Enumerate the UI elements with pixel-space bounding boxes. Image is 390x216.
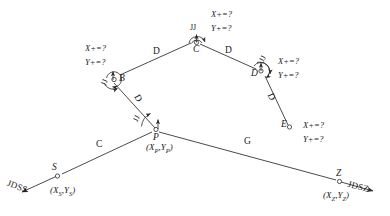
edge-label-B-C: D xyxy=(153,47,160,57)
station-marker-Z xyxy=(337,179,341,183)
unknown-x-label-C: X+=? xyxy=(211,10,232,19)
coordinate-label-S: (XS,YS) xyxy=(50,186,75,198)
coordinate-label-P: (XP,YP) xyxy=(146,143,173,155)
traverse-diagram-svg xyxy=(0,0,390,216)
diagram-canvas: S P B C D E Z (XS,YS) (XP,YP) (XZ,YZ) C … xyxy=(0,0,390,216)
unknown-y-label-D: Y+=? xyxy=(278,71,298,80)
coord-S-mid: ,Y xyxy=(62,185,69,195)
edge-label-C-D: D xyxy=(225,46,232,56)
edge-label-S-P: C xyxy=(96,140,102,150)
angle-label-C: JJ xyxy=(190,24,196,32)
station-label-E: E xyxy=(281,120,287,130)
angle-arcs xyxy=(105,35,271,130)
angle-arc-P xyxy=(142,114,151,127)
coord-Z-close: ) xyxy=(346,190,349,200)
unknown-x-label-D: X+=? xyxy=(278,57,299,66)
station-label-C: C xyxy=(193,45,199,55)
coord-S-open: (X xyxy=(50,185,59,195)
coord-P-open: (X xyxy=(146,142,155,152)
coord-Z-open: (X xyxy=(323,190,332,200)
station-label-Z: Z xyxy=(336,169,341,179)
edge-line-S-P xyxy=(62,132,152,174)
station-marker-B xyxy=(112,77,116,81)
coord-P-mid: ,Y xyxy=(158,142,165,152)
unknown-y-label-E: Y+=? xyxy=(303,135,323,144)
station-marker-S xyxy=(55,174,59,178)
station-label-S: S xyxy=(52,163,57,173)
coordinate-label-Z: (XZ,YZ) xyxy=(323,191,349,203)
unknown-x-label-E: X+=? xyxy=(303,121,324,130)
station-label-B: B xyxy=(119,74,125,84)
station-marker-P xyxy=(154,127,158,131)
edge-label-P-Z: G xyxy=(244,137,251,147)
station-marker-E xyxy=(287,125,291,129)
coord-P-close: ) xyxy=(170,142,173,152)
station-label-D: D xyxy=(251,69,258,79)
unknown-x-label-B: X+=? xyxy=(85,44,106,53)
coord-S-close: ) xyxy=(72,185,75,195)
unknown-y-label-C: Y+=? xyxy=(211,24,231,33)
unknown-y-label-B: Y+=? xyxy=(85,58,105,67)
